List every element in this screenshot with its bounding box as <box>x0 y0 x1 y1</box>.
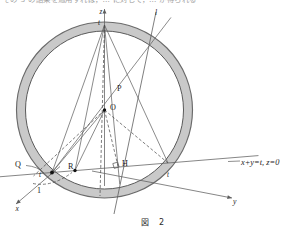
point-t-left-dot <box>50 171 54 175</box>
axis-z-arrowhead <box>103 9 107 14</box>
point-O-dot <box>103 108 106 111</box>
point-R-dot <box>73 169 76 172</box>
label-axis-z: z <box>99 8 103 16</box>
label-point-Q: Q <box>15 160 21 169</box>
label-axis-y: y <box>232 197 237 206</box>
label-line-l: l <box>155 8 157 17</box>
label-t-right: t <box>167 171 170 179</box>
label-point-O: O <box>110 103 116 112</box>
label-point-R: R <box>68 162 74 171</box>
axis-y-arrowhead <box>227 195 232 199</box>
line-apex-to-t-left <box>52 25 105 173</box>
label-point-H: H <box>122 159 128 168</box>
dashed-O-to-H <box>105 110 119 166</box>
line-apex-to-R <box>75 25 105 171</box>
geometry-diagram-svg: ztlPOHRQtt1xyx+y=t, z=0 <box>0 0 306 233</box>
plane-equation-leader <box>228 161 240 162</box>
line-t-left-to-P <box>50 17 171 174</box>
dashed-O-to-t-right <box>105 110 169 163</box>
figure-caption: 図 2 <box>0 216 306 227</box>
label-point-P: P <box>117 84 122 93</box>
figure-root: その 3 の結果を適用すれば，… に対して，… が得られる <box>0 0 306 233</box>
label-plane-equation: x+y=t, z=0 <box>240 158 280 167</box>
label-value-one: 1 <box>37 186 41 195</box>
label-axis-x: x <box>15 204 20 213</box>
